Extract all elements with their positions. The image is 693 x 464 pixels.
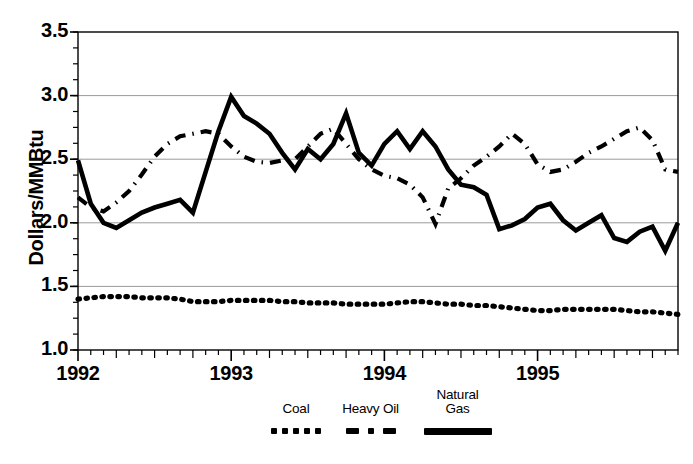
legend-dot bbox=[282, 428, 288, 434]
legend-dot bbox=[315, 428, 321, 434]
legend-swatch-heavy-oil bbox=[328, 428, 413, 436]
legend-label-coal: Coal bbox=[265, 402, 327, 416]
series-line-heavy-oil bbox=[78, 127, 678, 224]
plot-border bbox=[78, 32, 678, 350]
legend-item-coal: Coal bbox=[265, 402, 327, 436]
chart-figure: Dollars/MMBtu 1.01.52.02.53.03.5 1992199… bbox=[0, 0, 693, 464]
legend-swatch-coal bbox=[265, 428, 327, 436]
legend-dash bbox=[383, 428, 396, 434]
series-line-coal bbox=[78, 297, 678, 315]
legend-label-natural-gas-line2: Gas bbox=[415, 402, 500, 416]
legend-dot bbox=[271, 428, 277, 434]
legend-item-heavy-oil: Heavy Oil bbox=[328, 402, 413, 436]
chart-legend: Coal Heavy Oil bbox=[265, 388, 500, 450]
legend-dot bbox=[304, 428, 310, 434]
legend-label-natural-gas-line1: Natural bbox=[415, 388, 500, 402]
legend-item-natural-gas: Natural Gas bbox=[415, 388, 500, 436]
legend-label-heavy-oil: Heavy Oil bbox=[328, 402, 413, 416]
legend-dot bbox=[293, 428, 299, 434]
legend-solid-line bbox=[424, 428, 492, 435]
legend-dash bbox=[346, 428, 359, 434]
legend-swatch-natural-gas bbox=[415, 428, 500, 436]
legend-dot bbox=[368, 428, 374, 434]
